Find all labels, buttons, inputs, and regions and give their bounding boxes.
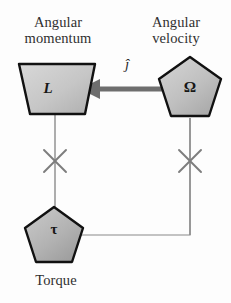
- diagram-canvas: Angular momentum Angular velocity Torque…: [0, 0, 231, 303]
- node-symbol-angular-velocity: Ω: [178, 78, 202, 96]
- node-label-angular-momentum: Angular momentum: [6, 14, 110, 46]
- node-symbol-torque: τ: [44, 221, 64, 238]
- node-label-torque: Torque: [16, 272, 96, 288]
- node-label-angular-velocity: Angular velocity: [126, 14, 226, 46]
- node-symbol-angular-momentum: L: [36, 80, 60, 97]
- edge-torque-to-omega-return: [73, 118, 190, 235]
- edge-label-j-hat: ĵ: [116, 56, 138, 73]
- edge-velocity-to-momentum-arrow: [80, 79, 168, 99]
